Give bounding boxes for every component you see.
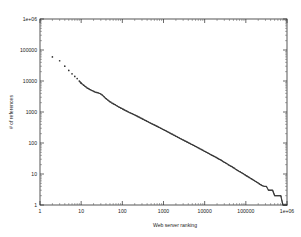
x-tick-label: 100000 — [237, 208, 254, 214]
y-tick-label: 10000 — [23, 78, 37, 84]
y-tick-label: 100000 — [20, 47, 37, 53]
data-point — [64, 65, 66, 67]
data-series-points — [52, 56, 288, 206]
y-axis-ticklabels: 1101001000100001000001e+06 — [20, 16, 37, 208]
data-point — [76, 78, 78, 80]
zipf-loglog-plot: 1101001000100001000001e+06 1101001000100… — [0, 0, 301, 237]
y-tick-label: 1 — [34, 202, 37, 208]
y-tick-label: 1e+06 — [23, 16, 37, 22]
x-tick-label: 10000 — [198, 208, 212, 214]
data-point — [59, 60, 61, 62]
chart-figure: 1101001000100001000001e+06 1101001000100… — [0, 0, 301, 237]
data-point — [71, 73, 73, 75]
x-axis-ticklabels: 1101001000100001000001e+06 — [39, 208, 295, 214]
x-tick-label: 100 — [118, 208, 127, 214]
data-point — [74, 76, 76, 78]
y-tick-label: 100 — [29, 140, 38, 146]
x-tick-label: 1000 — [158, 208, 169, 214]
data-point — [68, 70, 70, 72]
x-axis-title: Web server ranking — [153, 222, 197, 228]
y-tick-label: 1000 — [26, 109, 37, 115]
x-tick-label: 1 — [39, 208, 42, 214]
data-point — [286, 204, 287, 205]
y-tick-label: 10 — [31, 171, 37, 177]
y-axis-title: # of references — [8, 95, 14, 129]
x-tick-label: 10 — [78, 208, 84, 214]
data-point — [52, 56, 54, 58]
x-tick-label: 1e+06 — [280, 208, 294, 214]
